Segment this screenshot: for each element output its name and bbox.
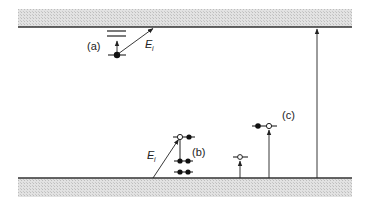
process-b: E i (b) bbox=[147, 134, 205, 178]
ei-sub-b: i bbox=[154, 156, 156, 163]
ei-sub-a: i bbox=[152, 45, 154, 52]
label-a: (a) bbox=[87, 40, 100, 52]
conduction-band bbox=[18, 9, 352, 27]
band-diagram: (a) E i E i (b) (c) bbox=[0, 0, 372, 202]
label-b: (b) bbox=[192, 146, 205, 158]
valence-band bbox=[18, 178, 352, 197]
process-a: (a) E i bbox=[87, 29, 154, 59]
label-c: (c) bbox=[282, 109, 295, 121]
process-c: (c) bbox=[233, 109, 295, 178]
